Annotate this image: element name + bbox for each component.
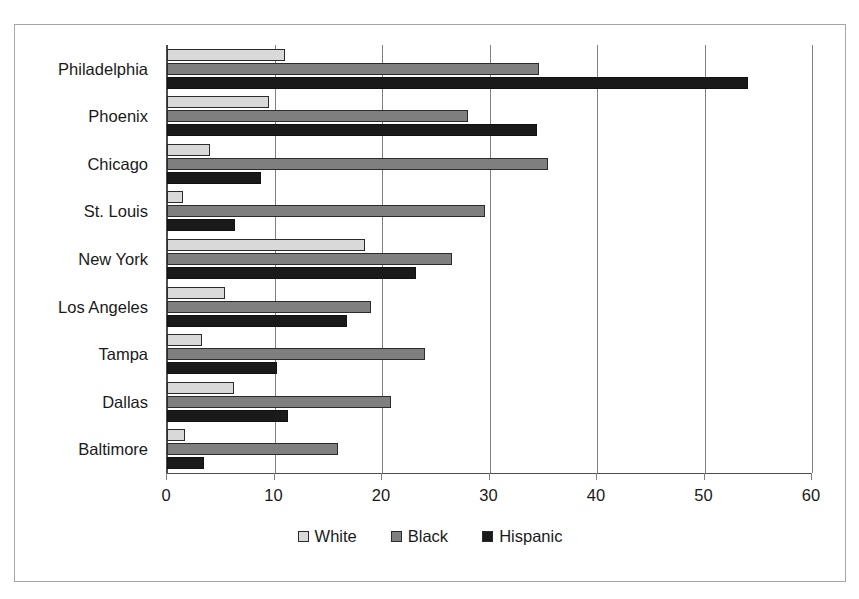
chart-frame: 0102030405060 PhiladelphiaPhoenixChicago… — [14, 24, 846, 582]
bar-tampa-black — [167, 348, 425, 360]
bar-group — [167, 45, 811, 93]
bar-baltimore-white — [167, 429, 185, 441]
bar-tampa-white — [167, 334, 202, 346]
bar-new-york-white — [167, 239, 365, 251]
category-label: St. Louis — [0, 203, 148, 220]
plot-area — [166, 45, 811, 473]
tickmark-10 — [274, 473, 275, 480]
legend-item-hispanic[interactable]: Hispanic — [482, 527, 562, 546]
legend-label: White — [315, 527, 357, 546]
bar-group — [167, 140, 811, 188]
bar-group — [167, 330, 811, 378]
bar-los-angeles-black — [167, 301, 371, 313]
bar-group — [167, 235, 811, 283]
x-tick-label: 10 — [244, 486, 304, 505]
x-tick-label: 30 — [459, 486, 519, 505]
category-label: Phoenix — [0, 108, 148, 125]
tickmark-40 — [596, 473, 597, 480]
bar-philadelphia-white — [167, 49, 285, 61]
category-label: Tampa — [0, 346, 148, 363]
bar-phoenix-black — [167, 110, 468, 122]
bar-los-angeles-white — [167, 287, 225, 299]
tickmark-50 — [704, 473, 705, 480]
tickmark-0 — [166, 473, 167, 480]
legend-swatch-white-icon — [298, 531, 309, 542]
gridline-60 — [812, 45, 813, 473]
bar-new-york-hispanic — [167, 267, 416, 279]
bar-dallas-hispanic — [167, 410, 288, 422]
category-label: Dallas — [0, 394, 148, 411]
bar-new-york-black — [167, 253, 452, 265]
bar-group — [167, 188, 811, 236]
tickmark-30 — [489, 473, 490, 480]
bar-group — [167, 425, 811, 473]
bar-group — [167, 93, 811, 141]
bar-dallas-white — [167, 382, 234, 394]
bar-group — [167, 378, 811, 426]
bar-chicago-white — [167, 144, 210, 156]
bar-st-louis-black — [167, 205, 485, 217]
bar-dallas-black — [167, 396, 391, 408]
bar-phoenix-white — [167, 96, 269, 108]
x-tick-label: 20 — [351, 486, 411, 505]
bar-philadelphia-hispanic — [167, 77, 748, 89]
legend-label: Black — [408, 527, 448, 546]
bar-st-louis-hispanic — [167, 219, 235, 231]
bar-philadelphia-black — [167, 63, 539, 75]
category-label: New York — [0, 251, 148, 268]
bar-baltimore-black — [167, 443, 338, 455]
legend-item-black[interactable]: Black — [391, 527, 448, 546]
tickmark-20 — [381, 473, 382, 480]
chart-legend: WhiteBlackHispanic — [15, 527, 845, 546]
tickmark-60 — [811, 473, 812, 480]
bar-group — [167, 283, 811, 331]
bar-chicago-hispanic — [167, 172, 261, 184]
x-tick-label: 60 — [781, 486, 841, 505]
legend-swatch-hispanic-icon — [482, 531, 493, 542]
x-tick-label: 40 — [566, 486, 626, 505]
category-label: Chicago — [0, 156, 148, 173]
bar-phoenix-hispanic — [167, 124, 537, 136]
bar-tampa-hispanic — [167, 362, 277, 374]
bar-st-louis-white — [167, 191, 183, 203]
legend-swatch-black-icon — [391, 531, 402, 542]
x-tick-label: 50 — [674, 486, 734, 505]
x-tick-label: 0 — [136, 486, 196, 505]
legend-label: Hispanic — [499, 527, 562, 546]
category-label: Los Angeles — [0, 299, 148, 316]
category-label: Baltimore — [0, 441, 148, 458]
bar-chicago-black — [167, 158, 548, 170]
bar-baltimore-hispanic — [167, 457, 204, 469]
category-label: Philadelphia — [0, 61, 148, 78]
legend-item-white[interactable]: White — [298, 527, 357, 546]
bar-los-angeles-hispanic — [167, 315, 347, 327]
